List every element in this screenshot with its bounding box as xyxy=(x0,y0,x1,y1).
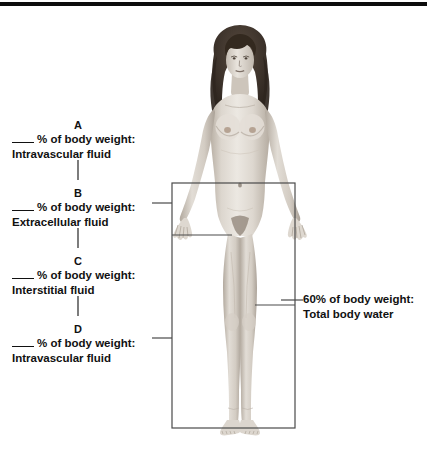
callout-b-line2: Extracellular fluid xyxy=(12,215,162,230)
fill-in-blank[interactable] xyxy=(12,201,34,211)
figure-page: A % of body weight: Intravascular fluid … xyxy=(0,0,427,455)
callout-c-key: C xyxy=(12,254,144,268)
callout-total-line1: 60% of body weight: xyxy=(303,292,423,307)
callout-a-key: A xyxy=(12,118,144,132)
callout-c-line2: Interstitial fluid xyxy=(12,283,162,298)
callout-a: A % of body weight: Intravascular fluid xyxy=(12,118,162,162)
fill-in-blank[interactable] xyxy=(12,269,34,279)
callout-d-line2: Intravascular fluid xyxy=(12,351,162,366)
callout-b-key: B xyxy=(12,186,144,200)
callout-b: B % of body weight: Extracellular fluid xyxy=(12,186,162,230)
callout-total-line2: Total body water xyxy=(303,307,423,322)
callout-d-key: D xyxy=(12,322,144,336)
callout-total-body-water: 60% of body weight: Total body water xyxy=(303,292,423,321)
header-divider xyxy=(0,2,427,6)
fill-in-blank[interactable] xyxy=(12,133,34,143)
callout-c: C % of body weight: Interstitial fluid xyxy=(12,254,162,298)
callout-b-line1: % of body weight: xyxy=(12,200,162,215)
callout-a-line1: % of body weight: xyxy=(12,132,162,147)
callout-d-line1: % of body weight: xyxy=(12,336,162,351)
callout-c-line1: % of body weight: xyxy=(12,268,162,283)
female-body-illustration xyxy=(165,22,315,437)
callout-a-line2: Intravascular fluid xyxy=(12,147,162,162)
callout-d: D % of body weight: Intravascular fluid xyxy=(12,322,162,366)
fill-in-blank[interactable] xyxy=(12,337,34,347)
